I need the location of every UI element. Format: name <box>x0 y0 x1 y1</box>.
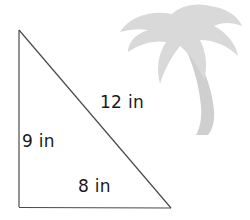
bottom-side-label: 8 in <box>78 178 111 195</box>
left-side-label: 9 in <box>22 133 55 150</box>
triangle-diagram: 12 in 9 in 8 in <box>0 0 250 220</box>
palm-tree-icon <box>120 4 242 135</box>
hypotenuse-label: 12 in <box>100 94 144 111</box>
bottom-side <box>19 208 171 209</box>
